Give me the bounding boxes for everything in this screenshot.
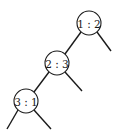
node-label: 3 : 1 <box>14 96 38 108</box>
tree-edge <box>65 32 81 54</box>
tree-edge <box>7 110 18 129</box>
decision-tree-diagram: 1 : 2 2 : 3 3 : 1 <box>0 0 119 137</box>
tree-node: 3 : 1 <box>14 89 38 113</box>
tree-edge <box>65 72 82 91</box>
node-label: 1 : 2 <box>77 18 101 30</box>
tree-node: 2 : 3 <box>45 51 69 75</box>
node-label: 2 : 3 <box>45 58 69 70</box>
tree-node: 1 : 2 <box>77 11 101 35</box>
tree-edge <box>34 72 49 92</box>
tree-nodes: 1 : 2 2 : 3 3 : 1 <box>14 11 101 113</box>
tree-edges <box>7 32 111 129</box>
tree-edge <box>97 32 111 51</box>
tree-edge <box>34 110 51 129</box>
